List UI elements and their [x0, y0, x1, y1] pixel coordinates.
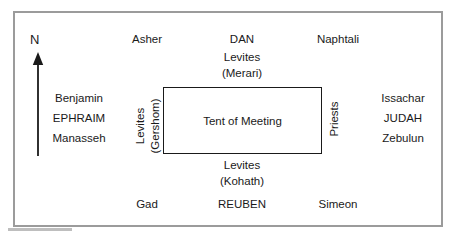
tribe-label-ephraim: EPHRAIM [53, 110, 105, 126]
tribe-label-zebulun: Zebulun [382, 130, 424, 146]
tribe-label-naphtali: Naphtali [317, 31, 359, 47]
tribe-label-reuben: REUBEN [218, 196, 266, 212]
priests-label: Priests [326, 81, 344, 157]
levites-kohath-label: Levites (Kohath) [220, 158, 264, 189]
levites-kohath-line2: (Kohath) [220, 174, 264, 190]
tent-of-meeting-box: Tent of Meeting [163, 87, 322, 154]
levites-gershom-label: Levites (Gershom) [130, 71, 166, 181]
tribe-label-benjamin: Benjamin [55, 90, 103, 106]
tribe-label-manasseh: Manasseh [52, 130, 105, 146]
north-arrow-icon [31, 52, 45, 156]
tent-of-meeting-label: Tent of Meeting [203, 115, 282, 127]
camp-layout-diagram: N Asher DAN Naphtali Levites (Merari) Be… [0, 0, 454, 241]
levites-merari-line1: Levites [224, 50, 260, 66]
levites-merari-label: Levites (Merari) [222, 50, 262, 81]
levites-merari-line2: (Merari) [222, 66, 262, 82]
compass-north-label: N [30, 32, 40, 47]
tribe-label-judah: JUDAH [384, 110, 422, 126]
priests-text: Priests [327, 101, 343, 136]
page-edge-artifact [8, 228, 72, 231]
tribe-label-simeon: Simeon [319, 196, 358, 212]
tribe-label-asher: Asher [132, 31, 162, 47]
levites-gershom-line1: Levites [133, 108, 149, 144]
tribe-label-issachar: Issachar [381, 90, 424, 106]
tribe-label-dan: DAN [230, 31, 254, 47]
levites-kohath-line1: Levites [224, 158, 260, 174]
levites-gershom-line2: (Gershom) [148, 99, 164, 154]
tribe-label-gad: Gad [136, 196, 158, 212]
